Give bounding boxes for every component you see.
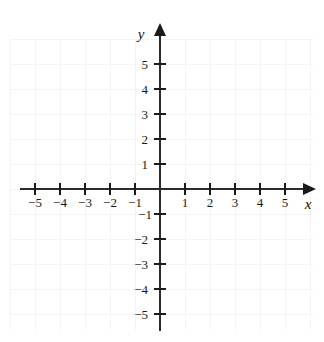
y-tick-label: 2 (142, 132, 149, 147)
y-tick-label: −1 (138, 207, 152, 222)
x-tick-label: 2 (207, 195, 214, 210)
y-tick-label: 1 (142, 157, 149, 172)
y-axis-label: y (136, 26, 145, 42)
y-tick-label: −2 (134, 232, 148, 247)
y-tick-label: −5 (134, 307, 148, 322)
y-tick-label: 4 (142, 82, 149, 97)
x-axis-label: x (304, 196, 312, 212)
y-tick-label: 3 (142, 107, 149, 122)
x-tick-label: 5 (282, 195, 289, 210)
x-tick-label: 1 (182, 195, 189, 210)
x-tick-label: −2 (103, 195, 117, 210)
y-axis-arrow-icon (154, 23, 166, 36)
x-tick-label: −4 (53, 195, 67, 210)
x-tick-label: −3 (78, 195, 92, 210)
x-tick-label: 4 (257, 195, 264, 210)
x-tick-label: −5 (28, 195, 42, 210)
y-tick-label: −4 (134, 282, 148, 297)
x-tick-label: 3 (232, 195, 239, 210)
y-tick-label: −3 (134, 257, 148, 272)
coordinate-plane-canvas: −5 −4 −3 −2 −1 1 2 3 4 5 5 4 3 2 1 −1 −2… (0, 0, 324, 342)
coordinate-plane-figure: −5 −4 −3 −2 −1 1 2 3 4 5 5 4 3 2 1 −1 −2… (0, 0, 324, 342)
grid-lines (10, 39, 313, 330)
x-axis-tick-labels: −5 −4 −3 −2 −1 1 2 3 4 5 (28, 195, 288, 210)
y-tick-label: 5 (142, 57, 149, 72)
